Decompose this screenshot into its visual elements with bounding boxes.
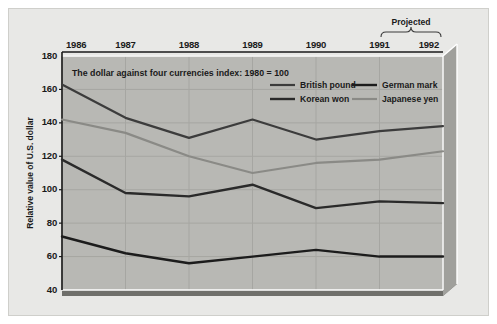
y-tick-100: 100 <box>42 183 57 194</box>
x-tick-1990: 1990 <box>306 39 326 50</box>
line-chart-svg: 180 160 140 120 100 80 60 40 1986 <box>0 0 497 324</box>
x-tick-1988: 1988 <box>179 39 199 50</box>
y-tick-labels: 180 160 140 120 100 80 60 40 <box>42 50 57 295</box>
y-axis-title: Relative value of U.S. dollar <box>25 117 35 229</box>
x-tick-1986: 1986 <box>66 39 86 50</box>
chart-canvas: 180 160 140 120 100 80 60 40 1986 <box>0 0 497 324</box>
x-tick-labels: 1986 1987 1988 1989 1990 1991 1992 <box>66 39 439 50</box>
projected-bracket <box>381 27 441 37</box>
x-tick-1989: 1989 <box>242 39 262 50</box>
legend-label-korean-won: Korean won <box>300 94 349 104</box>
x-tick-1987: 1987 <box>115 39 135 50</box>
figure-root: 180 160 140 120 100 80 60 40 1986 <box>0 0 497 324</box>
y-tick-60: 60 <box>47 250 57 261</box>
y-tick-160: 160 <box>42 83 57 94</box>
projected-label: Projected <box>391 17 430 27</box>
y-tick-40: 40 <box>47 284 57 295</box>
y-tick-180: 180 <box>42 50 57 61</box>
x-tick-1992: 1992 <box>419 39 439 50</box>
legend-label-japanese-yen: Japanese yen <box>382 94 438 104</box>
y-tick-80: 80 <box>47 217 57 228</box>
x-tick-1991: 1991 <box>369 39 390 50</box>
chart-title: The dollar against four currencies index… <box>72 68 289 78</box>
plot-base-3d-front <box>62 290 443 296</box>
legend-label-german-mark: German mark <box>382 80 438 90</box>
legend-label-british-pound: British pound <box>300 80 356 90</box>
plot-side-3d <box>443 44 457 296</box>
y-tick-140: 140 <box>42 116 57 127</box>
y-tick-120: 120 <box>42 150 57 161</box>
